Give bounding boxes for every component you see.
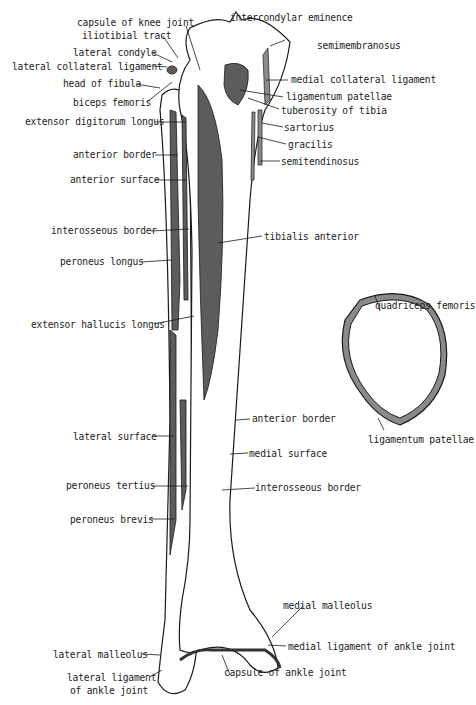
lateral-collateral-attach	[167, 66, 177, 74]
label-capsule-ankle: capsule of ankle joint	[224, 667, 347, 678]
label-interosseous-right: interosseous border	[255, 482, 361, 493]
label-ext-hallucis: extensor hallucis longus	[31, 319, 165, 330]
peroneus-brevis-muscle	[170, 330, 176, 555]
tibia	[179, 12, 290, 672]
label-anterior-surface: anterior surface	[70, 174, 159, 185]
label-lateral-ligament-2: of ankle joint	[70, 685, 148, 696]
label-medial-ligament-ankle: medial ligament of ankle joint	[288, 641, 455, 652]
label-medial-collateral: medial collateral ligament	[291, 74, 436, 85]
tibia-fibula-drawing	[0, 0, 476, 705]
label-tibialis-anterior: tibialis anterior	[264, 231, 359, 242]
label-semimembranosus: semimembranosus	[317, 40, 401, 51]
label-interosseous-left: interosseous border	[51, 225, 157, 236]
patella	[342, 294, 446, 425]
label-head-fibula: head of fibula	[63, 78, 141, 89]
label-sartorius: sartorius	[284, 122, 334, 133]
label-anterior-border-right: anterior border	[252, 413, 336, 424]
label-capsule-knee: capsule of knee joint	[77, 17, 194, 28]
label-lateral-surface: lateral surface	[73, 431, 157, 442]
label-quadriceps: quadriceps femoris	[375, 300, 475, 311]
label-lateral-ligament-1: lateral ligament	[67, 672, 156, 683]
label-anterior-border-left: anterior border	[73, 149, 157, 160]
label-biceps: biceps femoris	[73, 97, 151, 108]
label-medial-surface: medial surface	[249, 448, 327, 459]
label-patella-ligament: ligamentum patellae	[368, 434, 474, 445]
label-lateral-condyle: lateral condyle	[73, 47, 157, 58]
anatomy-figure: capsule of knee joint iliotibial tract l…	[0, 0, 476, 705]
label-lateral-collateral: lateral collateral ligament	[12, 61, 163, 72]
label-lateral-malleolus: lateral malleolus	[53, 649, 148, 660]
label-gracilis: gracilis	[288, 139, 333, 150]
label-medial-malleolus: medial malleolus	[283, 600, 372, 611]
label-intercondylar: intercondylar eminence	[230, 12, 353, 23]
label-semitendinosus: semitendinosus	[281, 156, 359, 167]
label-ext-digitorum: extensor digitorum longus	[25, 116, 164, 127]
label-peroneus-brevis: peroneus brevis	[70, 514, 154, 525]
label-tuberosity: tuberosity of tibia	[281, 105, 387, 116]
label-iliotibial: iliotibial tract	[82, 30, 171, 41]
label-peroneus-tertius: peroneus tertius	[66, 480, 155, 491]
label-peroneus-longus: peroneus longus	[60, 256, 144, 267]
label-ligamentum-patellae: ligamentum patellae	[286, 91, 392, 102]
